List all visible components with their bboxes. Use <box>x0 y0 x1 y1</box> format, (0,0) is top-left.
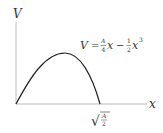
svg-text:A: A <box>100 37 106 44</box>
plot-canvas: V x V = A 4 x − 1 2 x 3 √ A 2 <box>0 0 163 133</box>
svg-text:√: √ <box>91 113 100 129</box>
svg-text:x: x <box>107 39 114 52</box>
svg-text:4: 4 <box>102 46 106 53</box>
svg-text:=: = <box>91 40 99 51</box>
svg-text:x: x <box>132 39 139 52</box>
y-axis-label: V <box>13 7 23 21</box>
svg-text:A: A <box>101 112 107 119</box>
svg-text:2: 2 <box>127 46 131 53</box>
svg-text:V: V <box>80 39 89 52</box>
svg-text:3: 3 <box>139 36 143 43</box>
equation-label: V = A 4 x − 1 2 x 3 <box>80 36 143 53</box>
root-label: √ A 2 <box>91 112 110 129</box>
x-axis-label: x <box>149 97 156 111</box>
svg-text:2: 2 <box>102 120 106 127</box>
svg-text:1: 1 <box>127 37 131 44</box>
curve <box>16 53 100 104</box>
svg-text:−: − <box>116 40 124 51</box>
